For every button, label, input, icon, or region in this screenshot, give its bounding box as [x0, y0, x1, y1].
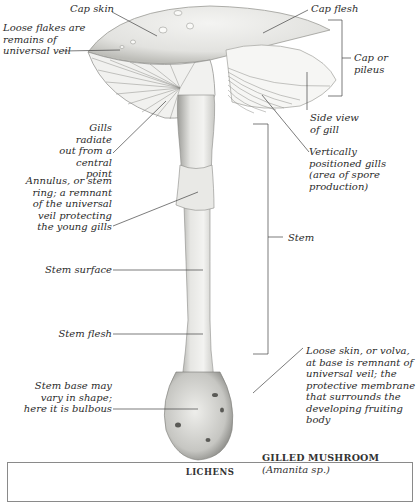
label-cap-skin: Cap skin	[70, 3, 114, 15]
label-stem-flesh: Stem flesh	[30, 328, 112, 340]
label-vertical-gills: Vertically positioned gills (area of spo…	[309, 146, 386, 192]
label-loose-flakes: Loose flakes are remains of universal ve…	[3, 22, 86, 57]
label-cap-or-pileus: Cap or pileus	[354, 52, 388, 75]
label-stem-surface: Stem surface	[30, 264, 112, 276]
label-volva: Loose skin, or volva, at base is remnant…	[306, 345, 420, 426]
lichens-title: LICHENS	[8, 467, 412, 477]
label-stem: Stem	[288, 232, 314, 244]
label-gills-radiate: Gills radiate out from a central point	[50, 122, 112, 180]
label-side-view-gill: Side view of gill	[310, 112, 359, 135]
label-stem-base: Stem base may vary in shape; here it is …	[20, 380, 112, 415]
lichens-section-box: LICHENS	[7, 462, 413, 502]
label-cap-flesh: Cap flesh	[311, 3, 358, 15]
label-annulus: Annulus, or stem ring; a remnant of the …	[20, 175, 112, 233]
